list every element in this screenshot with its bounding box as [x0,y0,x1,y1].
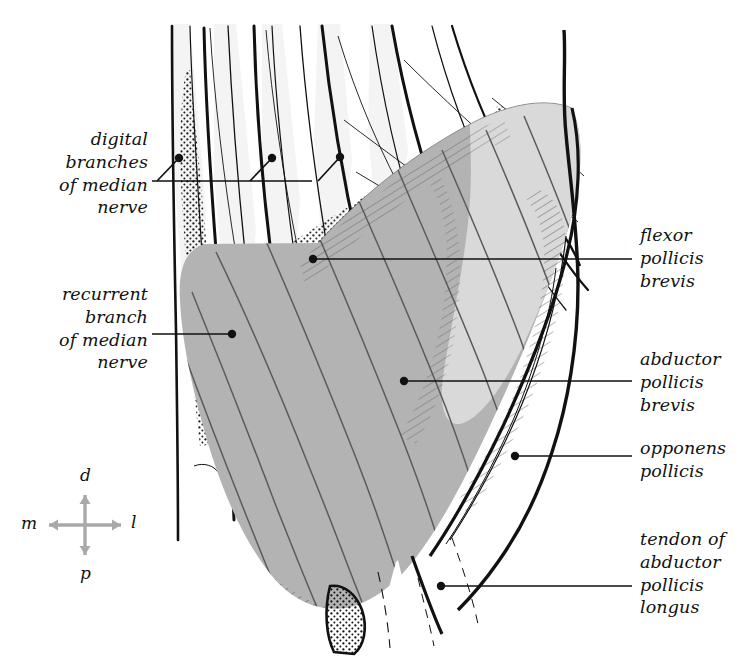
label-abductor-pollicis-brevis: abductor pollicis brevis [640,348,721,416]
leader-dot [175,154,183,162]
leader-dot [336,153,344,161]
label-recurrent-branch-of-median-nerve: recurrent branch of median nerve [0,283,148,374]
label-flexor-pollicis-brevis: flexor pollicis brevis [640,224,704,292]
figure-canvas: digital branches of median nerve recurre… [0,0,755,660]
label-opponens-pollicis: opponens pollicis [640,437,726,483]
compass-arrow-medial-head [49,520,58,531]
leader-dot [309,255,317,263]
label-tendon-of-abductor-pollicis-longus: tendon of abductor pollicis longus [640,528,725,619]
compass-arrow-lateral-head [112,520,121,531]
compass-label-proximal: p [80,563,91,583]
compass-arrow-distal-head [80,495,91,504]
compass-arrow-proximal-head [80,546,91,555]
leader-dot [268,154,276,162]
leader-dot [511,452,519,460]
label-digital-branches-of-median-nerve: digital branches of median nerve [0,128,148,219]
compass-label-distal: d [80,465,91,485]
leader-dot [228,330,236,338]
compass-label-lateral: l [131,512,136,532]
compass-label-medial: m [21,513,37,533]
leader-dot [400,377,408,385]
leader-dot [437,582,445,590]
orientation-compass [49,495,121,555]
